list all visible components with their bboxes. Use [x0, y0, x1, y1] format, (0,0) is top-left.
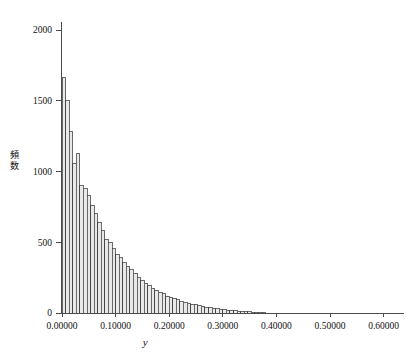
histogram-bar — [173, 299, 177, 313]
histogram-bar — [180, 301, 184, 313]
histogram-bar — [194, 305, 198, 313]
y-axis-label-char-1: 頻 — [10, 149, 19, 160]
histogram-bar — [108, 243, 112, 313]
histogram-bar — [116, 254, 120, 313]
histogram-bar — [123, 263, 127, 313]
histogram-bar — [216, 309, 220, 313]
histogram-bar — [201, 306, 205, 313]
x-axis-ticks: 0.000000.100000.200000.300000.400000.500… — [47, 313, 400, 331]
histogram-bar — [112, 249, 116, 313]
y-tick-label: 1000 — [33, 167, 52, 177]
x-tick-label: 0.00000 — [47, 321, 78, 331]
histogram-bar — [205, 307, 209, 313]
histogram-bar — [169, 297, 173, 313]
histogram-bar — [91, 205, 95, 313]
histogram-bar — [80, 186, 84, 313]
histogram-bar — [209, 308, 213, 313]
histogram-bar — [219, 309, 223, 313]
histogram-bar — [105, 239, 109, 313]
x-tick-label: 0.10000 — [100, 321, 131, 331]
histogram-bar — [62, 77, 66, 313]
histogram-bar — [187, 303, 191, 313]
histogram-bar — [223, 310, 227, 313]
y-tick-label: 2000 — [33, 25, 52, 35]
y-axis-label-char-2: 数 — [10, 160, 19, 171]
histogram-bar — [119, 258, 123, 313]
histogram-bar — [83, 188, 87, 313]
histogram-bar — [101, 231, 105, 313]
histogram-bar — [155, 290, 159, 313]
histogram-bar — [137, 278, 141, 313]
histogram-bar — [212, 308, 216, 313]
histogram-bar — [144, 283, 148, 313]
histogram-bar — [191, 304, 195, 313]
y-tick-label: 0 — [47, 308, 52, 318]
histogram-bar — [76, 153, 80, 313]
histogram-bar — [133, 273, 137, 313]
histogram-bar — [148, 285, 152, 313]
histogram-bar — [87, 196, 91, 313]
histogram-bar — [69, 132, 73, 313]
histogram-bar — [162, 294, 166, 313]
x-tick-label: 0.40000 — [261, 321, 292, 331]
y-tick-label: 1500 — [33, 96, 52, 106]
histogram-bar — [158, 292, 162, 313]
histogram-bar — [141, 280, 145, 313]
histogram-bar — [94, 214, 98, 313]
histogram-bar — [176, 300, 180, 313]
x-tick-label: 0.20000 — [154, 321, 185, 331]
histogram-bar — [126, 266, 130, 313]
histogram-bar — [98, 222, 102, 313]
histogram-bar — [166, 296, 170, 313]
histogram-svg: 0.000000.100000.200000.300000.400000.500… — [0, 0, 412, 354]
histogram-bars — [62, 77, 266, 313]
y-tick-label: 500 — [38, 238, 53, 248]
histogram-bar — [66, 101, 70, 313]
x-tick-label: 0.60000 — [368, 321, 399, 331]
histogram-bar — [130, 270, 134, 313]
histogram-bar — [151, 288, 155, 313]
y-axis-ticks: 0500100015002000 — [33, 25, 61, 318]
histogram-figure: 0.000000.100000.200000.300000.400000.500… — [0, 0, 412, 354]
x-tick-label: 0.30000 — [207, 321, 238, 331]
histogram-bar — [183, 302, 187, 313]
histogram-bar — [198, 306, 202, 313]
x-tick-label: 0.50000 — [315, 321, 346, 331]
histogram-bar — [73, 163, 77, 313]
x-axis-label: y — [142, 336, 148, 348]
